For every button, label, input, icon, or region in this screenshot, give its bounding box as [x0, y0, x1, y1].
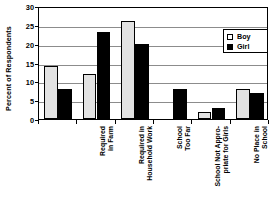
y-axis-tick-label: 10 [14, 78, 34, 87]
legend-label-boy: Boy [237, 33, 251, 41]
x-axis-tick-mark [38, 120, 39, 124]
x-axis-category-label: Required in Farm [99, 126, 115, 210]
gridline [39, 83, 267, 84]
x-axis-category-label: School Too Far [176, 126, 192, 210]
bar-girl-1 [97, 32, 111, 119]
y-axis-title: Percent of Respondents [4, 9, 13, 129]
legend-entry-boy: Boy [227, 32, 267, 41]
x-axis-tick-mark [115, 120, 116, 124]
bar-boy-2 [121, 21, 135, 119]
bar-girl-5 [250, 93, 264, 119]
gridline [39, 27, 267, 28]
x-axis-tick-mark [153, 120, 154, 124]
legend: Boy Girl [223, 29, 268, 53]
bar-girl-4 [212, 108, 226, 119]
legend-label-girl: Girl [237, 43, 249, 51]
x-axis-tick-mark [76, 120, 77, 124]
bar-boy-0 [44, 66, 58, 119]
y-axis-tick-label: 15 [14, 60, 34, 69]
y-axis-tick-label: 0 [14, 116, 34, 125]
plot-area [38, 7, 268, 120]
gridline [39, 65, 267, 66]
gridline [39, 102, 267, 103]
x-axis-tick-mark [191, 120, 192, 124]
legend-swatch-boy-icon [227, 34, 233, 40]
bar-boy-5 [236, 89, 250, 119]
x-axis-tick-mark [230, 120, 231, 124]
bar-girl-0 [58, 89, 72, 119]
bar-boy-1 [83, 74, 97, 119]
bar-boy-4 [198, 112, 212, 120]
bar-girl-2 [135, 44, 149, 119]
x-axis-category-label: School Not Appro- priate for Girls [214, 126, 230, 210]
legend-swatch-girl-icon [227, 44, 233, 50]
x-axis-tick-mark [268, 120, 269, 124]
bar-chart: Percent of Respondents 051015202530 Requ… [0, 0, 278, 214]
x-axis-category-label: Required in Household Work [138, 126, 154, 210]
legend-entry-girl: Girl [227, 42, 267, 51]
x-axis-category-label: No Place in School [253, 126, 269, 210]
y-axis-tick-label: 5 [14, 97, 34, 106]
y-axis-tick-label: 20 [14, 41, 34, 50]
y-axis-tick-label: 30 [14, 3, 34, 12]
bar-girl-3 [173, 89, 187, 119]
y-axis-tick-label: 25 [14, 22, 34, 31]
